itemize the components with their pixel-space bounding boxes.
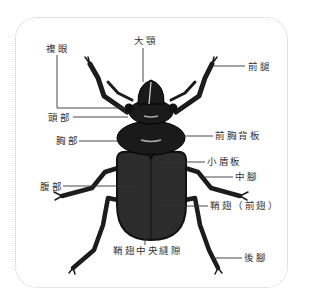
label-abdomen: 腹部	[40, 182, 63, 192]
label-scutellum: 小盾板	[207, 157, 242, 167]
label-elytral-suture: 鞘翅中央縫隙	[113, 246, 182, 256]
label-midleg: 中腳	[235, 172, 258, 182]
label-pronotum: 前胸背板	[215, 131, 261, 141]
pronotum-shape	[117, 121, 185, 155]
label-compound-eye: 複眼	[46, 44, 69, 54]
label-head: 頭部	[48, 113, 71, 123]
label-mandible: 大顎	[134, 36, 157, 46]
eye-right	[169, 104, 178, 113]
label-elytra: 鞘翅（前翅）	[210, 201, 279, 211]
label-thorax: 胸部	[56, 136, 79, 146]
label-foreleg: 前腿	[248, 62, 271, 72]
label-hindleg: 後腳	[244, 253, 267, 263]
